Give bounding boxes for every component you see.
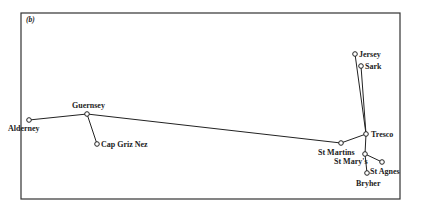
edge-st-martins-tresco: [341, 134, 366, 143]
node-jersey: [353, 52, 358, 57]
edge-alderney-guernsey: [29, 114, 87, 120]
edge-guernsey-st-martins: [87, 114, 341, 143]
panel-label: (b): [26, 15, 35, 24]
edge-guernsey-cap-griz-nez: [87, 114, 97, 144]
node-st-agnes: [380, 160, 385, 165]
node-labels: AlderneyGuernseyCap Griz NezSt MartinsTr…: [8, 50, 400, 188]
label-sark: Sark: [365, 62, 382, 71]
label-st-martins: St Martins: [318, 148, 355, 157]
label-guernsey: Guernsey: [72, 101, 105, 110]
label-bryher: Bryher: [356, 179, 381, 188]
node-bryher: [365, 171, 370, 176]
node-st-marys: [363, 152, 368, 157]
label-cap-griz-nez: Cap Griz Nez: [101, 140, 148, 149]
node-tresco: [364, 132, 369, 137]
label-st-marys: St Mary's: [334, 157, 368, 166]
node-sark: [359, 64, 364, 69]
edge-tresco-st-marys: [365, 134, 366, 154]
label-tresco: Tresco: [371, 130, 393, 139]
node-cap-griz-nez: [95, 142, 100, 147]
node-guernsey: [85, 112, 90, 117]
label-jersey: Jersey: [359, 50, 381, 59]
node-alderney: [27, 118, 32, 123]
node-st-martins: [339, 141, 344, 146]
label-st-agnes: St Agnes: [370, 167, 400, 176]
label-alderney: Alderney: [8, 124, 40, 133]
network-diagram: (b) AlderneyGuernseyCap Griz NezSt Marti…: [0, 0, 422, 213]
